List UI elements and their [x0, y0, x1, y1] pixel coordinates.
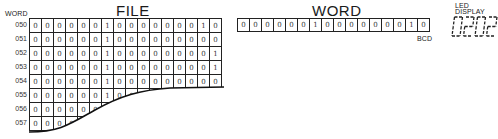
led-segment-b: [473, 17, 474, 27]
led-segment-b: [461, 17, 462, 27]
led-display: [0, 0, 498, 139]
led-segment-c: [483, 27, 484, 37]
led-segment-c: [460, 27, 461, 37]
led-digit: [475, 17, 486, 36]
led-segment-e: [487, 27, 488, 37]
led-segment-f: [476, 17, 477, 27]
led-segment-b: [496, 17, 497, 27]
led-digit: [464, 17, 475, 36]
led-digit: [452, 17, 463, 36]
led-segment-e: [464, 27, 465, 37]
led-segment-b: [484, 17, 485, 27]
led-segment-e: [452, 27, 453, 37]
led-digit: [487, 17, 498, 36]
led-segment-e: [475, 27, 476, 37]
led-segment-f: [453, 17, 454, 27]
